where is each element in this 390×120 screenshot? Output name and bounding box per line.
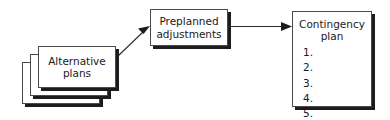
alternative-plans-node[interactable]: Alternative plans <box>38 46 116 88</box>
list-item: 4. <box>303 91 371 106</box>
contingency-plan-title-line1: Contingency <box>297 18 367 30</box>
list-item: 1. <box>303 45 371 60</box>
contingency-plan-node[interactable]: Contingency plan 1. 2. 3. 4. 5. <box>292 11 372 107</box>
preplanned-adjustments-label-line1: Preplanned <box>159 15 218 27</box>
list-item: 2. <box>303 60 371 75</box>
diagram-canvas: Alternative plans Preplanned adjustments… <box>0 0 390 120</box>
connector-preplanned-to-contingency-icon <box>229 22 292 31</box>
list-item: 5. <box>303 106 371 120</box>
alternative-plans-label-line2: plans <box>63 67 91 79</box>
alternative-plans-label-line1: Alternative <box>48 55 106 67</box>
preplanned-adjustments-node[interactable]: Preplanned adjustments <box>150 9 228 46</box>
preplanned-adjustments-label-line2: adjustments <box>156 28 221 40</box>
list-item: 3. <box>303 76 371 91</box>
contingency-plan-title: Contingency plan <box>293 18 371 42</box>
connector-alt-to-preplanned-icon <box>117 26 150 57</box>
contingency-plan-steps: 1. 2. 3. 4. 5. <box>293 45 371 120</box>
contingency-plan-title-line2: plan <box>297 30 367 42</box>
